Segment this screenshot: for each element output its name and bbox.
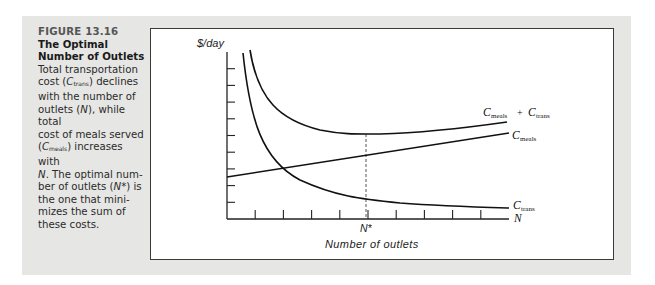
svg-text:C: C — [528, 106, 536, 118]
svg-text:C: C — [513, 199, 521, 211]
c-trans-label: C trans — [513, 199, 535, 213]
c-sum-label: C meals + C trans — [483, 106, 550, 120]
c-meals-label: C meals — [512, 129, 537, 143]
y-axis-label: $/day — [196, 37, 225, 49]
svg-text:meals: meals — [520, 135, 537, 143]
svg-text:meals: meals — [491, 112, 508, 120]
c-sum-curve — [250, 50, 507, 134]
x-ticks — [255, 210, 481, 219]
n-star-label: N* — [360, 222, 373, 234]
y-ticks — [227, 69, 235, 203]
c-trans-curve — [243, 53, 509, 208]
x-axis-end-label: N — [513, 212, 523, 224]
x-axis-label: Number of outlets — [325, 238, 419, 250]
chart-plot: $/day C meals + C trans C meals C trans … — [0, 0, 655, 285]
svg-text:C: C — [512, 129, 520, 141]
svg-text:trans: trans — [536, 112, 550, 120]
svg-text:trans: trans — [521, 205, 535, 213]
svg-text:+: + — [517, 107, 523, 118]
svg-text:C: C — [483, 106, 491, 118]
c-meals-line — [227, 133, 509, 177]
